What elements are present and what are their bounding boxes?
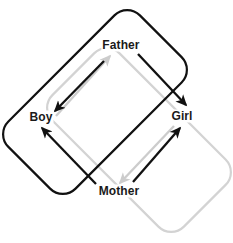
node-label-boy[interactable]: Boy (29, 111, 54, 124)
black-group-box (0, 3, 194, 202)
node-label-father[interactable]: Father (101, 39, 140, 52)
node-label-girl[interactable]: Girl (170, 110, 193, 123)
edge-mother-to-girl (133, 128, 180, 182)
gray-group-box (40, 41, 233, 240)
diagram-canvas: Father Boy Girl Mother (0, 0, 233, 243)
node-label-mother[interactable]: Mother (98, 185, 141, 198)
